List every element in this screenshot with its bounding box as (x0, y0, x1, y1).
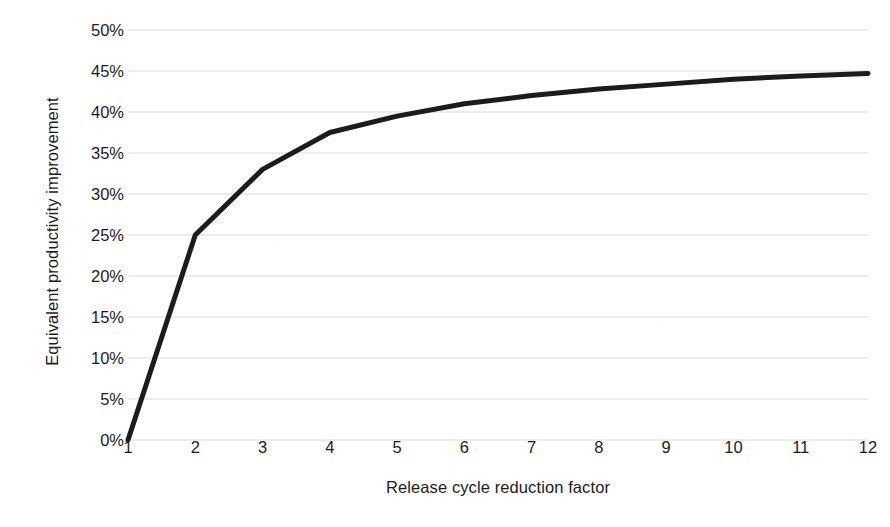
x-tick-label-11: 11 (781, 438, 821, 456)
x-tick-label-8: 8 (579, 438, 619, 456)
y-tick-label-45pct: 45% (52, 63, 124, 80)
x-axis-title: Release cycle reduction factor (128, 478, 868, 497)
x-tick-label-9: 9 (646, 438, 686, 456)
plot-area (128, 30, 868, 440)
x-tick-label-4: 4 (310, 438, 350, 456)
x-tick-label-12: 12 (848, 438, 888, 456)
chart-figure: Equivalent productivity improvement 0%5%… (0, 0, 890, 527)
x-tick-label-10: 10 (713, 438, 753, 456)
gridlines (128, 30, 868, 440)
x-tick-label-2: 2 (175, 438, 215, 456)
y-tick-label-5pct: 5% (52, 391, 124, 408)
y-tick-label-30pct: 30% (52, 186, 124, 203)
y-tick-label-25pct: 25% (52, 227, 124, 244)
data-series-line (128, 73, 868, 440)
y-tick-label-40pct: 40% (52, 104, 124, 121)
y-tick-label-20pct: 20% (52, 268, 124, 285)
line-path-equivalent-productivity-improvement (128, 73, 868, 440)
y-tick-label-35pct: 35% (52, 145, 124, 162)
y-tick-label-10pct: 10% (52, 350, 124, 367)
x-tick-label-6: 6 (444, 438, 484, 456)
chart-svg (128, 30, 868, 440)
y-tick-label-15pct: 15% (52, 309, 124, 326)
x-tick-label-5: 5 (377, 438, 417, 456)
x-axis-tick-labels: 123456789101112 (0, 438, 890, 466)
y-tick-label-50pct: 50% (52, 22, 124, 39)
x-tick-label-7: 7 (512, 438, 552, 456)
x-tick-label-3: 3 (243, 438, 283, 456)
x-tick-label-1: 1 (108, 438, 148, 456)
